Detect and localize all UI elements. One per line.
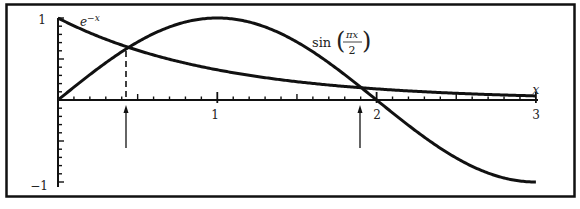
x-tick-label-3: 3 <box>532 108 540 122</box>
y-tick-label-1: 1 <box>38 13 46 27</box>
svg-text:): ) <box>362 27 371 55</box>
arrow-icon-left <box>124 105 129 148</box>
svg-text:πx: πx <box>345 29 359 40</box>
svg-text:2: 2 <box>349 44 356 57</box>
chart-figure: 1 −1 1 2 3 x e−x sin ( πx 2 ) <box>0 0 580 209</box>
svg-text:sin: sin <box>312 35 332 50</box>
arrow-icon-right <box>358 105 363 148</box>
sin-label: sin ( πx 2 ) <box>312 27 371 57</box>
exp-curve <box>58 18 536 96</box>
svg-text:(: ( <box>336 27 345 55</box>
exp-label: e−x <box>80 13 100 29</box>
y-tick-label-neg1: −1 <box>30 179 48 193</box>
x-tick-label-2: 2 <box>373 108 381 122</box>
x-tick-label-1: 1 <box>211 108 219 122</box>
